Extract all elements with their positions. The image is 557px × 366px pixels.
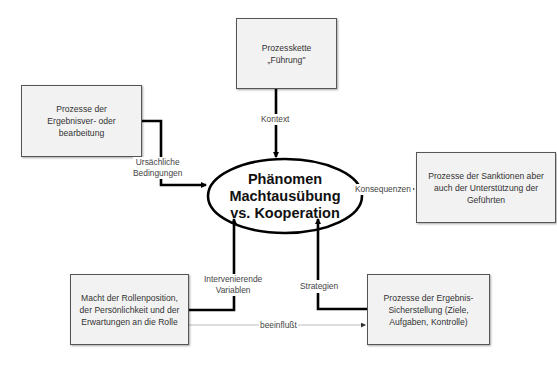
strategien-arrow [318,219,367,309]
label-kontext: Kontext [260,114,290,125]
box-sanktionen-unterstuetzung: Prozesse der Sanktionen aber auch der Un… [416,152,556,223]
box-right-text: Prozesse der Sanktionen aber auch der Un… [423,170,549,206]
phenomenon-line-3: vs. Kooperation [230,205,340,222]
label-konsequenzen: Konsequenzen [353,184,413,195]
label-beeinflusst: beeinflußt [259,320,298,331]
label-ursaechliche-line-1: Ursächliche [133,157,182,168]
box-macht-rollenposition: Macht der Rollenposition, der Persönlich… [70,274,189,345]
label-strategien: Strategien [299,280,339,293]
box-bottom-right-text: Prozesse der Ergebnis-Sicherstellung (Zi… [380,292,477,328]
label-intervenierende-line-2: Variablen [204,285,262,296]
label-ursaechliche-line-2: Bedingungen [133,168,182,179]
box-bottom-left-text: Macht der Rollenposition, der Persönlich… [77,292,182,328]
box-ergebnis-sicherstellung: Prozesse der Ergebnis-Sicherstellung (Zi… [367,274,490,345]
box-top-text: Prozesskette „Führung" [243,42,330,66]
box-left-text: Prozesse der Ergebnisver- oder bearbeitu… [32,103,131,139]
label-ursaechliche-bedingungen: Ursächliche Bedingungen [133,157,182,179]
box-ergebnisbearbeitung: Prozesse der Ergebnisver- oder bearbeitu… [21,85,142,157]
phenomenon-line-1: Phänomen [248,171,322,188]
label-intervenierende-variablen: Intervenierende Variablen [204,274,262,296]
intervenierende-variablen-arrow [188,219,234,310]
phenomenon-line-2: Machtausübung [229,188,340,205]
label-intervenierende-line-1: Intervenierende [204,274,262,285]
phenomenon-label: Phänomen Machtausübung vs. Kooperation [207,160,363,232]
box-prozesskette-fuehrung: Prozesskette „Führung" [236,18,337,89]
